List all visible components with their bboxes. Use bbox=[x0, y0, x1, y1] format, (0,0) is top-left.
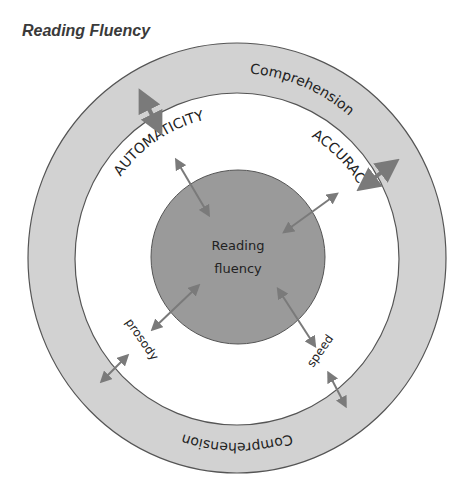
reading-fluency-diagram: Comprehension Comprehension AUTOMATICITY… bbox=[0, 0, 470, 498]
center-label-line1: Reading bbox=[212, 238, 265, 253]
center-label-line2: fluency bbox=[214, 261, 262, 276]
reading-fluency-core bbox=[151, 170, 325, 344]
